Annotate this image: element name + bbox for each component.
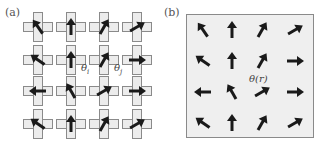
field-arrow-icon <box>222 20 242 40</box>
panel-a-label: (a) <box>5 6 20 19</box>
field-arrow-icon <box>285 51 305 71</box>
theta-field-label: θ(r) <box>249 73 268 84</box>
spin-arrow-icon <box>127 50 147 70</box>
spin-arrow-icon <box>61 17 81 37</box>
panel-b-label: (b) <box>164 6 180 19</box>
theta-i-label: θi <box>81 62 89 76</box>
field-arrow-icon <box>285 82 305 102</box>
spin-arrow-icon <box>28 81 48 101</box>
spin-arrow-icon <box>61 114 81 134</box>
field-arrow-icon <box>222 51 242 71</box>
spin-arrow-icon <box>61 50 81 70</box>
field-arrow-icon <box>193 82 213 102</box>
spin-arrow-icon <box>127 81 147 101</box>
theta-j-label: θj <box>114 62 122 76</box>
field-arrow-icon <box>222 113 242 133</box>
